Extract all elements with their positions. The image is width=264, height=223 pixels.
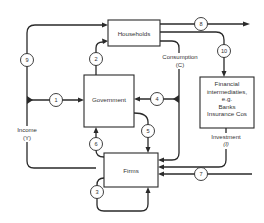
flow-marker-9: 9 [21,54,34,67]
flow-marker-5: 5 [142,125,155,138]
financial-line-1: Financial [215,80,240,87]
svg-text:1: 1 [54,97,57,103]
financial-line-3: e.g. [222,95,233,102]
government-node: Government [84,75,134,127]
flow-marker-4: 4 [151,93,164,106]
svg-text:4: 4 [155,96,158,102]
flow-marker-8: 8 [195,18,208,31]
flow-marker-10: 10 [218,45,231,58]
arrow-head-to-government-right [134,97,140,102]
svg-text:10: 10 [221,48,227,54]
svg-text:9: 9 [25,57,28,63]
consumption-label: Consumption (C) [157,53,203,69]
investment-label: Investment (I) [206,133,246,149]
firms-label: Firms [123,167,138,174]
financial-line-4: Banks [218,103,235,110]
income-label: Income (Y) [10,126,46,142]
government-label: Government [92,96,126,103]
investment-label-line-1: Investment [211,134,241,140]
financial-line-5: Insurance Cos [207,110,247,117]
svg-text:2: 2 [94,56,97,62]
svg-text:5: 5 [146,128,149,134]
income-label-line-2: (Y) [23,135,31,141]
financial-line-2: intermediaties, [207,88,248,95]
svg-text:8: 8 [199,21,202,27]
households-label: Households [118,30,151,37]
circular-flow-diagram: Households Government Firms Financial in… [0,0,264,223]
arrow-head-to-firms-bottom [146,187,151,193]
consumption-label-line-2: (C) [176,62,184,68]
arrow-head-to-financial [222,71,227,77]
svg-text:6: 6 [94,141,97,147]
arrow-head-to-households-top [102,23,108,28]
arrow-head-to-firms-top [146,147,151,153]
flow-marker-3: 3 [91,186,104,199]
flow-marker-2: 2 [90,53,103,66]
flow-marker-7: 7 [195,168,208,181]
income-label-line-1: Income [17,127,37,133]
arrow-head-to-government-left [78,98,84,103]
financial-intermediaries-node: Financial intermediaties, e.g. Banks Ins… [200,77,254,128]
arrow-head-to-government-bottom [94,127,99,133]
arrow-head-consumption-to-firms [158,158,164,163]
arrow-head-to-households-lower [102,39,108,45]
investment-label-line-2: (I) [223,141,229,147]
firms-node: Firms [104,153,158,187]
arrow-head-out-right [243,22,250,27]
arrow-head-investment-to-firms [158,165,164,170]
svg-text:3: 3 [95,189,98,195]
arrow-head-external-to-firms [158,172,164,177]
flow-marker-6: 6 [90,138,103,151]
households-node: Households [108,20,160,46]
consumption-label-line-1: Consumption [162,54,197,60]
flow-marker-1: 1 [50,94,63,107]
svg-text:7: 7 [199,171,202,177]
